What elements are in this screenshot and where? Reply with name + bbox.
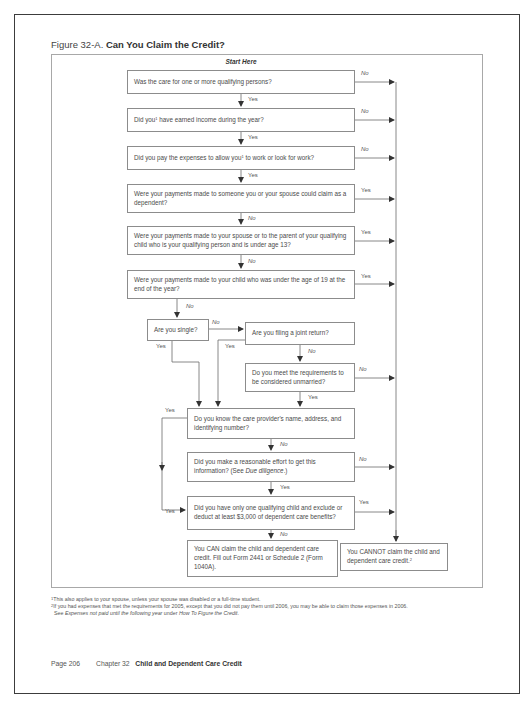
label-no-effort: No <box>359 456 367 462</box>
question-one-child-benefits: Did you have only one qualifying child a… <box>187 496 355 530</box>
question-pay-expenses: Did you pay the expenses to allow you1 t… <box>127 146 355 170</box>
start-here-label: Start Here <box>127 58 355 65</box>
footnote-1: 1This also applies to your spouse, unles… <box>51 596 521 603</box>
label-no-q6: No <box>186 303 194 309</box>
question-qualifying-persons: Was the care for one or more qualifying … <box>127 70 355 94</box>
footnote-2-reference: See Expenses not paid until the followin… <box>51 610 521 617</box>
question-single: Are you single? <box>147 319 209 341</box>
question-joint-return: Are you filing a joint return? <box>245 322 355 345</box>
question-earned-income: Did you1 have earned income during the y… <box>127 108 355 132</box>
label-yes-bypass: Yes <box>165 508 175 514</box>
label-yes-one-child: Yes <box>359 499 369 505</box>
label-yes-single: Yes <box>156 343 166 349</box>
label-no-one-child: No <box>280 531 288 537</box>
label-no-provider: No <box>280 441 288 447</box>
footnote-2: 2If you had expenses that met the requir… <box>51 603 521 610</box>
chapter-title: Child and Dependent Care Credit <box>135 660 242 667</box>
page-footer: Page 206 Chapter 32 Child and Dependent … <box>51 660 242 667</box>
label-yes-effort: Yes <box>280 484 290 490</box>
chapter-number: Chapter 32 <box>96 660 130 667</box>
label-yes-q6: Yes <box>361 273 371 279</box>
outcome-cannot-claim: You CANNOT claim the child and dependent… <box>340 543 448 571</box>
label-yes-provider: Yes <box>165 407 175 413</box>
label-no-single: No <box>212 319 220 325</box>
figure-heading: Can You Claim the Credit? <box>106 39 225 50</box>
page-number: Page 206 <box>51 660 80 667</box>
label-no-q3: No <box>361 146 369 152</box>
label-yes-q1: Yes <box>248 96 258 102</box>
figure-title: Figure 32-A. Can You Claim the Credit? <box>51 39 225 50</box>
label-no-unmarried: No <box>359 366 367 372</box>
label-yes-q3: Yes <box>248 172 258 178</box>
label-no-q1: No <box>361 70 369 76</box>
figure-label: Figure 32-A. <box>51 39 103 50</box>
question-considered-unmarried: Do you meet the requirements to be consi… <box>245 363 355 392</box>
question-dependent-payee: Were your payments made to someone you o… <box>127 184 355 213</box>
question-reasonable-effort: Did you make a reasonable effort to get … <box>187 452 355 482</box>
label-yes-q2: Yes <box>248 134 258 140</box>
question-provider-info: Do you know the care provider's name, ad… <box>187 408 355 439</box>
label-no-q5: No <box>248 258 256 264</box>
outcome-can-claim: You CAN claim the child and dependent ca… <box>187 540 338 577</box>
label-no-joint: No <box>308 348 316 354</box>
label-no-q2: No <box>361 108 369 114</box>
label-no-q4: No <box>248 215 256 221</box>
label-yes-q4: Yes <box>361 187 371 193</box>
label-yes-unmarried: Yes <box>308 394 318 400</box>
label-yes-joint: Yes <box>225 343 235 349</box>
footnotes: 1This also applies to your spouse, unles… <box>51 596 521 617</box>
label-yes-q5: Yes <box>361 229 371 235</box>
question-spouse-parent-payee: Were your payments made to your spouse o… <box>127 226 355 255</box>
question-child-under-19: Were your payments made to your child wh… <box>127 270 355 299</box>
